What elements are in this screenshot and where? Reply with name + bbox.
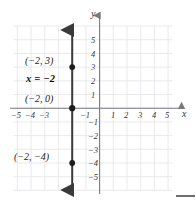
y-tick-label-neg1: −1 <box>88 117 98 127</box>
annotation-point-negative2-3: (−2, 3) <box>25 55 53 66</box>
y-tick-label-1: 1 <box>91 90 95 100</box>
y-tick-label-neg2: −2 <box>88 131 98 141</box>
x-tick-label-5: 5 <box>165 110 169 120</box>
annotation-point-negative2-negative4: (−2, −4) <box>14 151 49 162</box>
x-tick-label-neg4: −4 <box>25 110 35 120</box>
x-tick-label-2: 2 <box>124 110 128 120</box>
y-tick-label-neg3: −3 <box>88 145 98 155</box>
point-negative2-negative4 <box>69 160 75 166</box>
y-tick-label-3: 3 <box>91 62 95 72</box>
point-negative2-0 <box>69 105 75 111</box>
y-tick-label-5: 5 <box>91 35 95 45</box>
y-axis-label: y <box>91 8 95 19</box>
x-tick-label-neg5: −5 <box>11 110 21 120</box>
x-tick-label-3: 3 <box>138 110 142 120</box>
annotation-equation-x-equals-negative-2: x = −2 <box>26 73 55 84</box>
annotation-point-negative2-0: (−2, 0) <box>25 93 53 104</box>
point-negative2-3 <box>69 64 75 70</box>
x-axis-label: x <box>182 108 186 119</box>
y-tick-label-neg5: −5 <box>88 172 98 182</box>
x-tick-label-4: 4 <box>152 110 156 120</box>
x-tick-label-1: 1 <box>111 110 115 120</box>
y-tick-label-4: 4 <box>91 49 95 59</box>
coordinate-plane-figure: −5 −4 −3 −1 1 2 3 4 5 5 4 3 2 1 −1 −2 −3… <box>0 0 196 201</box>
x-tick-label-neg3: −3 <box>39 110 49 120</box>
y-tick-label-2: 2 <box>91 76 95 86</box>
scan-artifact <box>176 195 195 197</box>
y-tick-label-neg4: −4 <box>88 158 98 168</box>
